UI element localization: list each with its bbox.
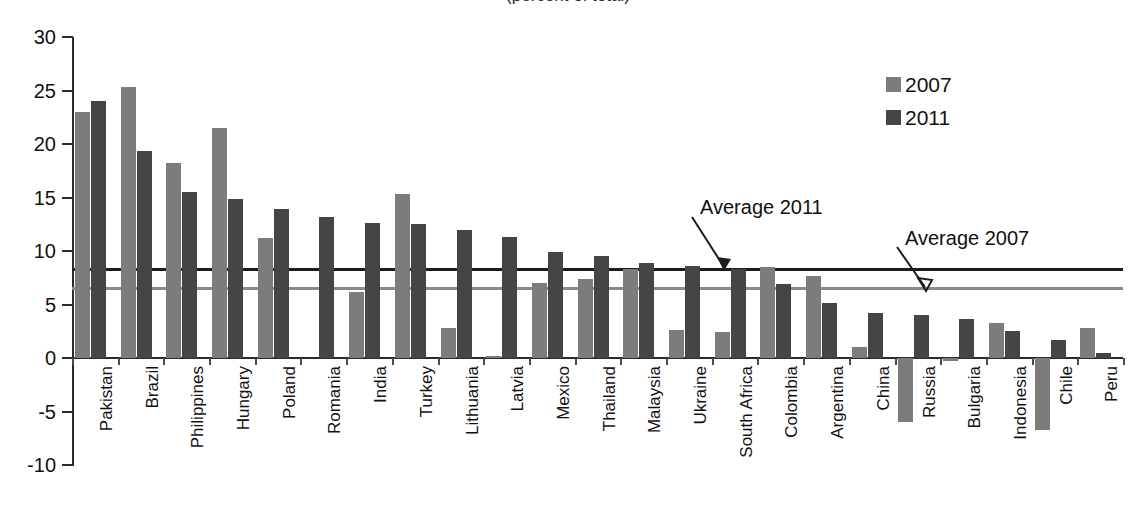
bar-2007 — [715, 332, 730, 358]
bar-2007 — [212, 128, 227, 358]
y-axis-tick-label: 15 — [10, 188, 56, 208]
x-axis-category-label: India — [372, 366, 389, 403]
bar-group — [438, 0, 484, 525]
bar-2011 — [594, 256, 609, 358]
bar-2007 — [349, 292, 364, 358]
bar-group — [575, 0, 621, 525]
bar-group — [118, 0, 164, 525]
y-axis-tick-label: 10 — [10, 241, 56, 261]
x-axis-tick — [757, 358, 759, 365]
x-axis-category-label: Lithuania — [464, 366, 481, 435]
y-axis-tick-label: 5 — [10, 295, 56, 315]
bar-group — [1032, 0, 1078, 525]
x-axis-tick — [392, 358, 394, 365]
bar-2011 — [457, 230, 472, 358]
x-axis-category-label: Bulgaria — [966, 366, 983, 428]
x-axis-category-label: Philippines — [189, 366, 206, 448]
y-axis-tick-label: -10 — [10, 455, 56, 475]
x-axis-tick — [575, 358, 577, 365]
bar-2011 — [274, 209, 289, 358]
bar-2007 — [441, 328, 456, 358]
x-axis-tick — [72, 358, 74, 365]
bar-2007 — [486, 356, 501, 358]
bar-2011 — [502, 237, 517, 358]
bar-2011 — [776, 284, 791, 358]
legend-label: 2011 — [905, 107, 950, 128]
x-axis-category-label: Pakistan — [98, 366, 115, 431]
bar-2007 — [989, 323, 1004, 358]
x-axis-tick — [255, 358, 257, 365]
bar-2007 — [943, 358, 958, 361]
legend-item-2011[interactable]: 2011 — [886, 101, 952, 134]
bar-2011 — [1005, 331, 1020, 358]
x-axis-tick — [163, 358, 165, 365]
bar-group — [986, 0, 1032, 525]
x-axis-tick — [346, 358, 348, 365]
chart-legend: 20072011 — [886, 68, 952, 134]
bar-2011 — [548, 252, 563, 358]
bar-2011 — [868, 313, 883, 358]
x-axis-category-label: Romania — [326, 366, 343, 434]
bar-2011 — [959, 319, 974, 358]
x-axis-tick — [300, 358, 302, 365]
bar-2007 — [75, 112, 90, 358]
x-axis-tick — [529, 358, 531, 365]
x-axis-tick — [895, 358, 897, 365]
x-axis-tick — [209, 358, 211, 365]
x-axis-tick — [1123, 358, 1125, 365]
y-axis-tick-label: 20 — [10, 134, 56, 154]
bar-2011 — [137, 151, 152, 358]
bar-2011 — [228, 199, 243, 358]
x-axis-category-label: Colombia — [783, 366, 800, 438]
bar-2011 — [365, 223, 380, 358]
bar-group — [620, 0, 666, 525]
bar-group — [1077, 0, 1123, 525]
bar-2011 — [685, 266, 700, 358]
bar-group — [483, 0, 529, 525]
x-axis-category-label: Chile — [1058, 366, 1075, 405]
bar-2011 — [822, 303, 837, 358]
bar-2007 — [395, 194, 410, 358]
x-axis-tick — [620, 358, 622, 365]
x-axis-tick — [803, 358, 805, 365]
x-axis-category-label: Peru — [1103, 366, 1120, 402]
bar-group — [757, 0, 803, 525]
x-axis-category-label: Turkey — [418, 366, 435, 417]
x-axis-tick — [986, 358, 988, 365]
x-axis-category-label: South Africa — [738, 366, 755, 458]
x-axis-category-label: Argentina — [829, 366, 846, 439]
x-axis-tick — [118, 358, 120, 365]
legend-swatch-icon — [886, 77, 901, 92]
bar-group — [300, 0, 346, 525]
bar-2007 — [898, 358, 913, 422]
x-axis-category-label: Malaysia — [646, 366, 663, 433]
bar-2007 — [532, 283, 547, 358]
bar-group — [72, 0, 118, 525]
x-axis-category-label: Mexico — [555, 366, 572, 420]
x-axis-tick — [849, 358, 851, 365]
x-axis-tick — [940, 358, 942, 365]
bar-2011 — [1096, 353, 1111, 358]
bar-2007 — [121, 87, 136, 358]
y-axis-tick-label: 25 — [10, 81, 56, 101]
y-axis-tick-label: 0 — [10, 348, 56, 368]
bar-series-container — [72, 0, 1123, 525]
bar-2007 — [1080, 328, 1095, 358]
bar-group — [255, 0, 301, 525]
x-axis-category-label: Hungary — [235, 366, 252, 430]
legend-item-2007[interactable]: 2007 — [886, 68, 952, 101]
bar-group — [392, 0, 438, 525]
bar-2011 — [1051, 340, 1066, 358]
legend-label: 2007 — [905, 74, 952, 95]
bar-2007 — [1035, 358, 1050, 430]
bar-2007 — [760, 267, 775, 358]
bar-2007 — [806, 276, 821, 358]
x-axis-category-label: Indonesia — [1012, 366, 1029, 440]
bar-2007 — [669, 330, 684, 358]
bar-group — [346, 0, 392, 525]
x-axis-category-label: China — [875, 366, 892, 410]
x-axis-tick — [666, 358, 668, 365]
bar-2007 — [166, 163, 181, 358]
bar-2011 — [639, 263, 654, 358]
bar-2007 — [258, 238, 273, 358]
